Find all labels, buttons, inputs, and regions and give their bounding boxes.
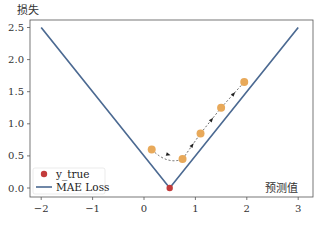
y-tick-label: 0.5 — [8, 150, 24, 161]
y-axis-label: 损失 — [17, 3, 39, 17]
chart: 0.00.51.01.52.02.5 −2−10123 损失 预测值 y_tru… — [0, 0, 319, 230]
prediction-point — [217, 104, 225, 112]
x-tick-label: 3 — [295, 203, 301, 214]
legend-marker-y-true — [41, 171, 47, 177]
series-layer — [41, 28, 298, 192]
mae-loss-line — [41, 28, 298, 189]
x-tick-label: 1 — [192, 203, 198, 214]
x-tick-label: −1 — [85, 203, 100, 214]
arrow-icon — [166, 152, 171, 157]
y-tick-label: 2.0 — [8, 54, 24, 65]
arrow-icon — [190, 142, 196, 148]
prediction-point — [197, 129, 205, 137]
legend-label-y-true: y_true — [55, 168, 89, 181]
x-tick-label: 2 — [244, 203, 250, 214]
prediction-point — [179, 155, 187, 163]
legend-label-mae-loss: MAE Loss — [56, 181, 109, 193]
x-axis-label: 预测值 — [265, 182, 298, 195]
y-true-point — [167, 185, 173, 191]
y-tick-label: 1.0 — [8, 118, 24, 129]
x-axis: −2−10123 — [34, 197, 302, 214]
y-axis: 0.00.51.01.52.02.5 — [8, 22, 30, 194]
y-tick-label: 1.5 — [8, 86, 24, 97]
x-tick-label: −2 — [34, 203, 49, 214]
y-tick-label: 0.0 — [8, 183, 24, 194]
x-tick-label: 0 — [141, 203, 147, 214]
prediction-point — [240, 78, 248, 86]
y-tick-label: 2.5 — [8, 22, 24, 33]
prediction-point — [148, 145, 156, 153]
legend: y_true MAE Loss — [33, 168, 109, 194]
